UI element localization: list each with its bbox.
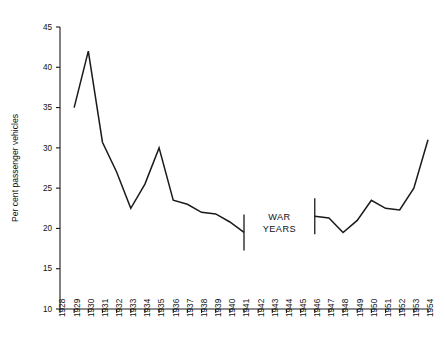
- x-tick-label: 1949: [356, 298, 365, 317]
- y-tick-label: 35: [43, 103, 53, 112]
- y-tick-label: 15: [43, 264, 53, 273]
- y-tick-label: 25: [43, 184, 53, 193]
- x-tick-label: 1934: [143, 298, 152, 317]
- x-tick-label: 1929: [73, 298, 82, 317]
- data-series-group: [74, 51, 428, 232]
- x-tick-group: 1928192919301931193219331934193519361937…: [58, 298, 435, 317]
- x-tick-label: 1935: [157, 298, 166, 317]
- x-tick-label: 1928: [58, 298, 67, 317]
- x-tick-label: 1953: [412, 298, 421, 317]
- x-tick-label: 1940: [228, 298, 237, 317]
- x-tick-label: 1932: [115, 298, 124, 317]
- x-tick-label: 1944: [285, 298, 294, 317]
- x-tick-label: 1937: [186, 298, 195, 317]
- y-tick-group: 1015202530354045: [43, 23, 60, 314]
- x-tick-label: 1945: [299, 298, 308, 317]
- data-line-prewar: [74, 51, 244, 232]
- war-annotation-line1: WAR: [268, 212, 290, 222]
- war-years-annotation: WAR YEARS: [244, 198, 315, 250]
- x-tick-label: 1931: [101, 298, 110, 317]
- x-axis: 1928192919301931193219331934193519361937…: [58, 298, 435, 317]
- x-tick-label: 1946: [313, 298, 322, 317]
- x-tick-label: 1930: [87, 298, 96, 317]
- x-tick-label: 1943: [271, 298, 280, 317]
- y-tick-label: 40: [43, 63, 53, 72]
- x-tick-label: 1950: [370, 298, 379, 317]
- x-tick-label: 1942: [257, 298, 266, 317]
- y-axis-label: Per cent passenger vehicles: [10, 114, 20, 222]
- y-tick-label: 20: [43, 224, 53, 233]
- x-tick-label: 1941: [242, 298, 251, 317]
- x-tick-label: 1951: [384, 298, 393, 317]
- x-tick-label: 1936: [172, 298, 181, 317]
- data-line-postwar: [315, 140, 428, 233]
- y-tick-label: 30: [43, 144, 53, 153]
- x-tick-label: 1952: [398, 298, 407, 317]
- x-tick-label: 1948: [341, 298, 350, 317]
- x-tick-label: 1933: [129, 298, 138, 317]
- y-axis-label-text: Per cent passenger vehicles: [10, 114, 20, 222]
- x-tick-label: 1947: [327, 298, 336, 317]
- y-tick-label: 10: [43, 305, 53, 314]
- y-tick-label: 45: [43, 23, 53, 32]
- chart-svg: 1015202530354045 Per cent passenger vehi…: [0, 0, 445, 352]
- x-tick-label: 1939: [214, 298, 223, 317]
- x-tick-label: 1938: [200, 298, 209, 317]
- war-annotation-line2: YEARS: [263, 224, 296, 234]
- line-chart: 1015202530354045 Per cent passenger vehi…: [0, 0, 445, 352]
- y-axis: 1015202530354045 Per cent passenger vehi…: [10, 23, 60, 314]
- x-tick-label: 1954: [426, 298, 435, 317]
